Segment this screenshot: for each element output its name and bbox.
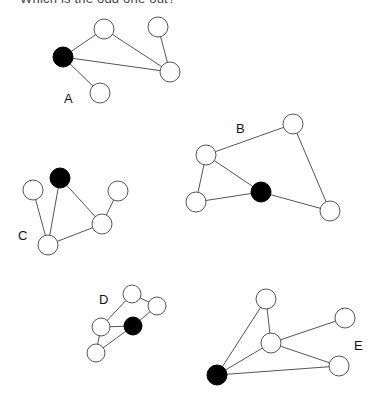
open-node — [108, 181, 128, 201]
open-node — [186, 192, 206, 212]
graph-label: B — [236, 121, 245, 136]
graph-edge — [217, 366, 339, 375]
open-node — [92, 318, 110, 336]
filled-node — [207, 365, 227, 385]
graph-label: E — [354, 338, 363, 353]
graph-edge — [261, 192, 330, 211]
open-node — [335, 308, 355, 328]
graph-edge — [63, 57, 170, 72]
filled-node — [251, 182, 271, 202]
open-node — [261, 333, 281, 353]
graph-edge — [293, 124, 330, 211]
open-node — [320, 201, 340, 221]
open-node — [256, 289, 276, 309]
open-node — [123, 285, 141, 303]
graph-d: D — [87, 285, 166, 362]
open-node — [283, 114, 303, 134]
graph-label: A — [64, 91, 73, 106]
graph-label: C — [18, 228, 27, 243]
graph-b: B — [186, 114, 340, 221]
open-node — [148, 297, 166, 315]
graph-a: A — [53, 17, 180, 106]
open-node — [160, 62, 180, 82]
open-node — [92, 214, 112, 234]
graph-edge — [271, 318, 345, 343]
open-node — [196, 145, 216, 165]
open-node — [23, 180, 43, 200]
graph-edge — [271, 343, 339, 366]
open-node — [148, 17, 168, 37]
graph-diagram: ABCDE — [0, 0, 384, 404]
open-node — [90, 83, 110, 103]
open-node — [87, 344, 105, 362]
graph-edge — [217, 299, 266, 375]
graph-label: D — [99, 292, 108, 307]
graph-c: C — [18, 168, 128, 255]
graph-edge — [206, 124, 293, 155]
filled-node — [53, 47, 73, 67]
filled-node — [50, 168, 70, 188]
filled-node — [124, 317, 142, 335]
graph-e: E — [207, 289, 363, 385]
graphs-layer: ABCDE — [18, 17, 363, 385]
open-node — [329, 356, 349, 376]
open-node — [38, 235, 58, 255]
open-node — [94, 19, 114, 39]
